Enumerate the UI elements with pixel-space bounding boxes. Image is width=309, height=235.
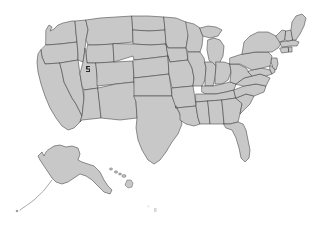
- aleutian-island-tip: [16, 210, 18, 212]
- state-south-dakota[interactable]: [133, 30, 166, 45]
- state-new-mexico[interactable]: [98, 82, 137, 120]
- hawaii-island-oahu: [114, 171, 117, 173]
- lower-map-artifact: [154, 208, 157, 212]
- state-north-dakota[interactable]: [132, 16, 165, 31]
- state-connecticut[interactable]: [280, 47, 289, 53]
- utah-idaho-marker-icon: [86, 66, 90, 72]
- hawaii-island-kauai: [110, 168, 113, 170]
- state-colorado[interactable]: [96, 61, 134, 86]
- state-rhode-island[interactable]: [289, 47, 292, 52]
- us-map-container: [0, 0, 309, 235]
- state-alabama[interactable]: [208, 100, 224, 124]
- hawaii-island-molokai: [119, 173, 122, 175]
- state-arkansas[interactable]: [172, 86, 196, 108]
- hawaii-island-maui: [122, 175, 126, 178]
- state-montana[interactable]: [86, 16, 133, 45]
- state-oklahoma[interactable]: [134, 74, 172, 96]
- us-map-svg: [0, 0, 309, 235]
- state-wyoming[interactable]: [86, 44, 114, 63]
